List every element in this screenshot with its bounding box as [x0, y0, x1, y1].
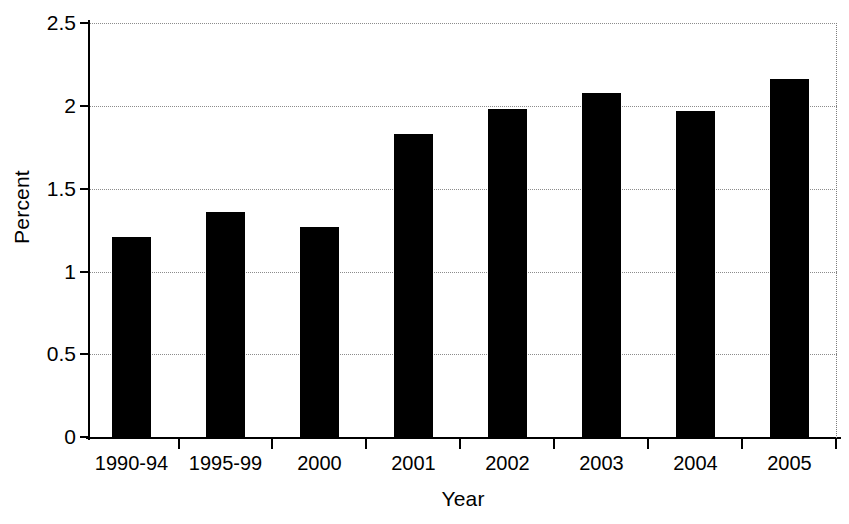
y-tick-label-2.5: 2.5: [4, 12, 76, 33]
bar-chart: Percent 2.5 2 1.5 1 0.5 0: [0, 0, 849, 524]
x-tick-label-2005: 2005: [740, 452, 839, 474]
y-tick-label-1.5: 1.5: [4, 178, 76, 199]
x-tick-label-2002: 2002: [458, 452, 557, 474]
y-tick-label-0: 0: [4, 426, 76, 447]
y-axis-line: [88, 20, 90, 440]
bar-2002: [488, 109, 527, 437]
x-tick-mark-3: [365, 439, 367, 449]
x-tick-label-2000: 2000: [270, 452, 369, 474]
y-tick-label-1: 1: [4, 261, 76, 282]
x-tick-mark-7: [741, 439, 743, 449]
x-tick-mark-1: [178, 439, 180, 449]
bar-2003: [582, 93, 621, 437]
x-tick-mark-5: [553, 439, 555, 449]
x-tick-label-2004: 2004: [646, 452, 745, 474]
bar-2000: [300, 227, 339, 437]
x-tick-mark-2: [271, 439, 273, 449]
y-tick-label-0.5: 0.5: [4, 343, 76, 364]
plot-right-border: [836, 23, 837, 438]
x-tick-mark-4: [459, 439, 461, 449]
x-tick-mark-8: [835, 439, 837, 449]
gridline-0.5: [88, 354, 837, 355]
y-tick-label-2: 2: [4, 95, 76, 116]
gridline-2: [88, 106, 837, 107]
bar-1990-94: [112, 237, 151, 437]
x-tick-label-1990-94: 1990-94: [82, 452, 181, 474]
x-axis-title: Year: [88, 487, 838, 511]
plot-area: [88, 23, 837, 437]
x-axis-line: [86, 437, 841, 439]
x-tick-mark-6: [647, 439, 649, 449]
x-tick-label-2001: 2001: [364, 452, 463, 474]
bar-2005: [770, 79, 809, 437]
x-tick-label-1995-99: 1995-99: [176, 452, 275, 474]
bar-2004: [676, 111, 715, 437]
y-axis-title: Percent: [10, 157, 34, 257]
bar-1995-99: [206, 212, 245, 437]
gridline-1.5: [88, 189, 837, 190]
gridline-1: [88, 272, 837, 273]
x-tick-label-2003: 2003: [552, 452, 651, 474]
gridline-2.5: [88, 23, 837, 24]
bar-2001: [394, 134, 433, 437]
